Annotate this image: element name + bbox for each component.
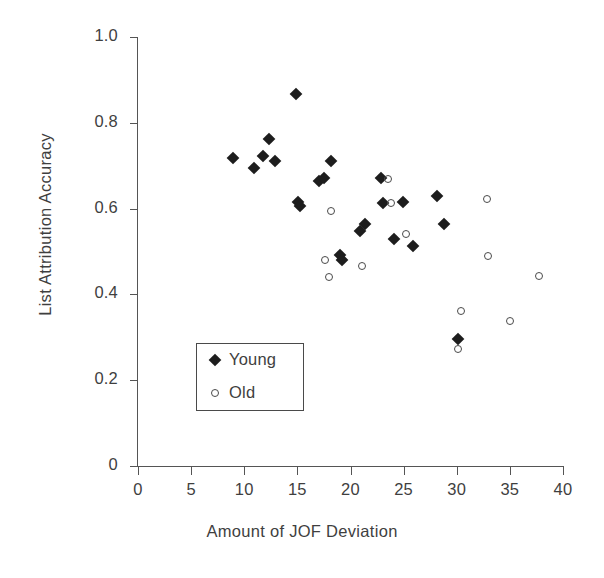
x-tick-label: 5 bbox=[171, 480, 211, 499]
y-tick-label: 1.0 bbox=[72, 26, 118, 45]
y-tick-label: 0.4 bbox=[72, 283, 118, 302]
x-tick bbox=[563, 467, 564, 475]
y-tick bbox=[130, 209, 138, 210]
data-point-old bbox=[484, 252, 492, 260]
y-axis-line bbox=[137, 37, 138, 467]
x-tick-label: 35 bbox=[490, 480, 530, 499]
legend-item-young: Young bbox=[197, 344, 303, 377]
x-tick bbox=[244, 467, 245, 475]
x-tick bbox=[297, 467, 298, 475]
x-tick bbox=[191, 467, 192, 475]
y-tick-label: 0.8 bbox=[72, 112, 118, 131]
x-tick-label: 20 bbox=[331, 480, 371, 499]
scatter-plot-figure: 00.20.40.60.81.0 0510152025303540 List A… bbox=[0, 0, 604, 578]
data-point-old bbox=[321, 256, 329, 264]
y-tick bbox=[130, 466, 138, 467]
y-tick-label: 0.2 bbox=[72, 369, 118, 388]
data-point-old bbox=[506, 317, 514, 325]
legend-label-old: Old bbox=[229, 383, 255, 402]
data-point-old bbox=[535, 272, 543, 280]
x-tick-label: 40 bbox=[543, 480, 583, 499]
data-point-old bbox=[483, 195, 491, 203]
data-point-old bbox=[387, 199, 395, 207]
y-tick bbox=[130, 380, 138, 381]
legend-box: Young Old bbox=[196, 343, 304, 411]
data-point-old bbox=[457, 307, 465, 315]
x-tick-label: 15 bbox=[277, 480, 317, 499]
x-axis-label: Amount of JOF Deviation bbox=[0, 522, 604, 541]
filled-diamond-icon bbox=[209, 354, 222, 367]
x-tick-label: 25 bbox=[384, 480, 424, 499]
y-tick-label: 0 bbox=[72, 455, 118, 474]
x-tick bbox=[351, 467, 352, 475]
x-tick bbox=[404, 467, 405, 475]
data-point-old bbox=[384, 175, 392, 183]
legend-label-young: Young bbox=[229, 350, 276, 369]
x-tick-label: 0 bbox=[118, 480, 158, 499]
y-tick bbox=[130, 37, 138, 38]
y-tick-label: 0.6 bbox=[72, 198, 118, 217]
x-tick bbox=[457, 467, 458, 475]
data-point-old bbox=[454, 345, 462, 353]
y-axis-label: List Attribution Accuracy bbox=[36, 75, 55, 375]
x-tick-label: 30 bbox=[437, 480, 477, 499]
data-point-old bbox=[402, 230, 410, 238]
data-point-old bbox=[327, 207, 335, 215]
legend-item-old: Old bbox=[197, 377, 303, 410]
open-circle-icon bbox=[211, 389, 219, 397]
x-tick bbox=[510, 467, 511, 475]
y-tick bbox=[130, 294, 138, 295]
data-point-old bbox=[358, 262, 366, 270]
y-tick bbox=[130, 123, 138, 124]
x-tick-label: 10 bbox=[224, 480, 264, 499]
x-tick bbox=[138, 467, 139, 475]
data-point-old bbox=[325, 273, 333, 281]
